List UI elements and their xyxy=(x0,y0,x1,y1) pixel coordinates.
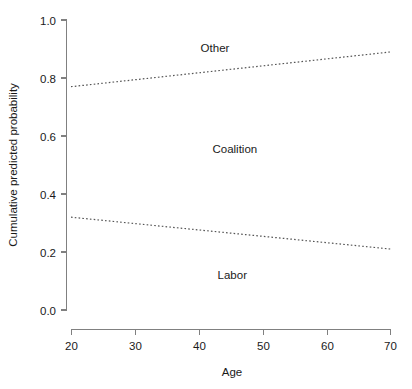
x-tick-label-20: 20 xyxy=(65,340,78,352)
x-tick-label-30: 30 xyxy=(129,340,142,352)
x-axis-tick-labels: 20 30 40 50 60 70 xyxy=(65,340,397,352)
region-label-other: Other xyxy=(201,42,230,54)
region-label-labor: Labor xyxy=(218,269,248,281)
y-tick-label-0.2: 0.2 xyxy=(40,247,56,259)
x-tick-label-50: 50 xyxy=(257,340,270,352)
y-tick-label-0.4: 0.4 xyxy=(40,189,57,201)
x-tick-label-70: 70 xyxy=(384,340,397,352)
y-tick-label-0.6: 0.6 xyxy=(40,131,56,143)
chart-figure: 1.0 0.8 0.6 0.4 0.2 0.0 Cumulative predi… xyxy=(0,0,412,389)
x-tick-label-40: 40 xyxy=(193,340,206,352)
x-axis-title: Age xyxy=(222,366,242,378)
region-label-coalition: Coalition xyxy=(212,143,257,155)
y-tick-label-0.0: 0.0 xyxy=(40,305,56,317)
y-tick-label-0.8: 0.8 xyxy=(40,73,56,85)
y-axis-ticks xyxy=(61,20,67,310)
cumulative-probability-plot: 1.0 0.8 0.6 0.4 0.2 0.0 Cumulative predi… xyxy=(0,0,412,389)
series-line-upper-boundary xyxy=(71,52,391,87)
y-tick-label-1.0: 1.0 xyxy=(40,15,56,27)
x-axis-ticks xyxy=(72,330,391,336)
y-axis-tick-labels: 1.0 0.8 0.6 0.4 0.2 0.0 xyxy=(40,15,57,317)
x-tick-label-60: 60 xyxy=(321,340,334,352)
y-axis-title: Cumulative predicted probability xyxy=(7,83,19,247)
series-line-lower-boundary xyxy=(71,217,391,249)
